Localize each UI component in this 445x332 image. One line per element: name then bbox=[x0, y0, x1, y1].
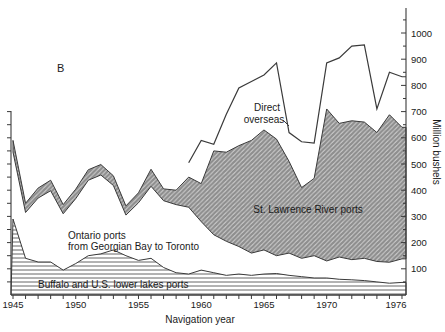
x-tick-label: 1965 bbox=[253, 299, 274, 310]
buffalo-label: Buffalo and U.S. lower lakes ports bbox=[38, 279, 188, 290]
x-tick-label: 1970 bbox=[316, 299, 337, 310]
y-tick-label: 700 bbox=[411, 106, 427, 117]
x-tick-label: 1960 bbox=[191, 299, 212, 310]
y-tick-label: 1000 bbox=[411, 28, 432, 39]
st-lawrence-label: St. Lawrence River ports bbox=[253, 204, 363, 215]
y-tick-label: 300 bbox=[411, 211, 427, 222]
grain-shipments-area-chart: 1002003004005006007008009001000194519501… bbox=[0, 0, 445, 332]
direct-overseas-label-line1: Direct bbox=[254, 102, 280, 113]
x-tick-label: 1976 bbox=[385, 299, 406, 310]
ontario-label-line2: from Georgian Bay to Toronto bbox=[68, 241, 199, 252]
x-tick-label: 1955 bbox=[128, 299, 149, 310]
x-tick-label: 1950 bbox=[65, 299, 86, 310]
chart-figure: 1002003004005006007008009001000194519501… bbox=[0, 0, 445, 332]
y-tick-label: 900 bbox=[411, 54, 427, 65]
y-tick-label: 600 bbox=[411, 132, 427, 143]
y-tick-label: 800 bbox=[411, 80, 427, 91]
ontario-label-line1: Ontario ports bbox=[68, 230, 126, 241]
y-tick-label: 400 bbox=[411, 185, 427, 196]
y-axis-title: Million bushels bbox=[431, 119, 442, 185]
x-tick-label: 1945 bbox=[2, 299, 23, 310]
y-tick-label: 200 bbox=[411, 237, 427, 248]
y-tick-label: 500 bbox=[411, 159, 427, 170]
x-axis-title: Navigation year bbox=[165, 314, 235, 325]
chart-areas bbox=[11, 45, 406, 295]
panel-label: B bbox=[57, 62, 64, 74]
direct-overseas-label-line2: overseas bbox=[244, 114, 285, 125]
y-tick-label: 100 bbox=[411, 263, 427, 274]
